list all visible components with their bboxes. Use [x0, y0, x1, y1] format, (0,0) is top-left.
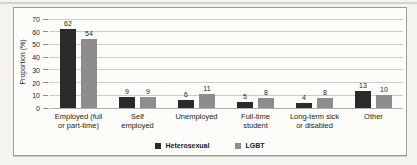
bar-lgbt: 11	[199, 94, 215, 108]
chart-frame: Proportion (%) 010203040506070 625499611…	[13, 7, 407, 156]
legend-label: LGBT	[245, 142, 264, 150]
bar-heterosexual: 9	[119, 97, 135, 108]
bar-lgbt: 8	[317, 98, 333, 108]
scan-artifact-line	[0, 2, 417, 4]
x-category-label: Unemployed	[167, 112, 226, 130]
y-axis: 010203040506070	[14, 19, 48, 108]
y-tick-label: 0	[14, 105, 40, 112]
bar-value-label: 62	[54, 20, 82, 28]
bar-lgbt: 8	[258, 98, 274, 108]
y-tick-mark	[43, 69, 48, 70]
scanned-figure: Proportion (%) 010203040506070 625499611…	[0, 0, 417, 165]
y-tick-mark	[43, 57, 48, 58]
x-category-label: Selfemployed	[108, 112, 167, 130]
bar-lgbt: 10	[376, 95, 392, 108]
y-tick-mark	[43, 108, 48, 109]
y-tick-mark	[43, 44, 48, 45]
y-tick-label: 70	[14, 16, 40, 23]
bar-heterosexual: 4	[296, 103, 312, 108]
y-tick-label: 50	[14, 41, 40, 48]
y-tick-mark	[43, 31, 48, 32]
bar-value-label: 54	[75, 30, 103, 38]
bar-group: 48	[285, 19, 344, 108]
bar-group: 1310	[344, 19, 403, 108]
bar-value-label: 8	[252, 89, 280, 97]
y-tick-mark	[43, 95, 48, 96]
legend-swatch-icon	[155, 143, 161, 149]
y-tick-label: 60	[14, 28, 40, 35]
bar-lgbt: 54	[81, 39, 97, 108]
bar-lgbt: 9	[140, 97, 156, 108]
y-tick-mark	[43, 19, 48, 20]
x-axis-labels: Employed (fullor part-time)SelfemployedU…	[49, 112, 403, 130]
plot-area: 62549961158481310	[49, 19, 403, 108]
bar-group: 99	[108, 19, 167, 108]
x-category-label: Long-term sickor disabled	[285, 112, 344, 130]
y-tick-label: 20	[14, 79, 40, 86]
bar-value-label: 8	[311, 89, 339, 97]
bar-value-label: 10	[370, 86, 398, 94]
y-tick-mark	[43, 82, 48, 83]
bar-value-label: 11	[193, 85, 221, 93]
bar-heterosexual: 13	[355, 91, 371, 108]
y-tick-label: 10	[14, 92, 40, 99]
bar-group: 58	[226, 19, 285, 108]
y-tick-label: 40	[14, 54, 40, 61]
bar-heterosexual: 62	[60, 29, 76, 108]
x-category-label: Other	[344, 112, 403, 130]
legend: HeterosexualLGBT	[14, 142, 406, 150]
x-category-label: Full-timestudent	[226, 112, 285, 130]
bar-group: 6254	[49, 19, 108, 108]
bar-heterosexual: 6	[178, 100, 194, 108]
bar-value-label: 9	[134, 88, 162, 96]
x-category-label: Employed (fullor part-time)	[49, 112, 108, 130]
legend-swatch-icon	[235, 143, 241, 149]
bar-groups: 62549961158481310	[49, 19, 403, 108]
bar-group: 611	[167, 19, 226, 108]
legend-label: Heterosexual	[165, 142, 209, 150]
y-tick-label: 30	[14, 66, 40, 73]
bar-heterosexual: 5	[237, 102, 253, 108]
legend-item-heterosexual: Heterosexual	[155, 142, 209, 150]
legend-item-lgbt: LGBT	[235, 142, 264, 150]
